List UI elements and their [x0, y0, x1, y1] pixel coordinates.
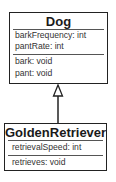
- attribute: pantRate: int: [15, 41, 64, 52]
- class-box-dog: Dog barkFrequency: int pantRate: int bar…: [9, 12, 108, 84]
- method: pant: void: [15, 68, 52, 79]
- divider: [8, 155, 103, 156]
- class-name: Dog: [10, 14, 107, 29]
- divider: [8, 140, 103, 141]
- hollow-triangle-arrowhead-icon: [54, 85, 63, 96]
- attribute: retrievalSpeed: int: [12, 142, 81, 153]
- method: retrieves: void: [12, 157, 66, 168]
- divider: [13, 54, 104, 55]
- attribute: barkFrequency: int: [15, 30, 86, 41]
- class-box-goldenretriever: GoldenRetriever retrievalSpeed: int retr…: [4, 123, 107, 171]
- method: bark: void: [15, 56, 52, 67]
- class-name: GoldenRetriever: [5, 125, 106, 140]
